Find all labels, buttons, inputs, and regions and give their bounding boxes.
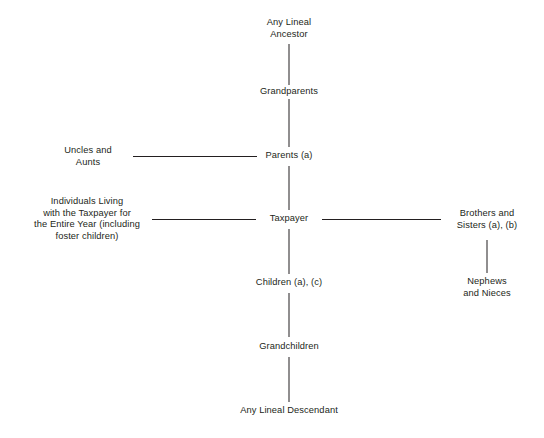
connector-grandparents-to-parents <box>289 99 290 147</box>
node-uncles-and-aunts: Uncles and Aunts <box>28 145 148 168</box>
connector-children-to-grandchildren <box>289 293 290 337</box>
node-children: Children (a), (c) <box>224 277 354 289</box>
connector-grandchildren-to-descendant <box>289 357 290 402</box>
node-grandparents: Grandparents <box>229 86 349 98</box>
connector-taxpayer-to-brothers-sisters <box>322 219 441 220</box>
node-parents: Parents (a) <box>234 150 344 162</box>
connector-taxpayer-to-children <box>289 229 290 274</box>
connector-brothers-sisters-to-nephews-nieces <box>487 240 488 273</box>
node-nephews-and-nieces: Nephews and Nieces <box>431 276 543 299</box>
node-grandchildren: Grandchildren <box>229 341 349 353</box>
connector-ancestor-to-grandparents <box>289 44 290 85</box>
connector-parents-to-taxpayer <box>289 166 290 210</box>
node-taxpayer: Taxpayer <box>239 213 339 225</box>
node-brothers-and-sisters: Brothers and Sisters (a), (b) <box>431 208 543 231</box>
node-individuals-living-with-taxpayer: Individuals Living with the Taxpayer for… <box>12 196 162 242</box>
relationship-chart: Any Lineal Ancestor Grandparents Parents… <box>0 0 544 438</box>
node-any-lineal-descendant: Any Lineal Descendant <box>199 405 379 417</box>
node-any-lineal-ancestor: Any Lineal Ancestor <box>229 17 349 40</box>
